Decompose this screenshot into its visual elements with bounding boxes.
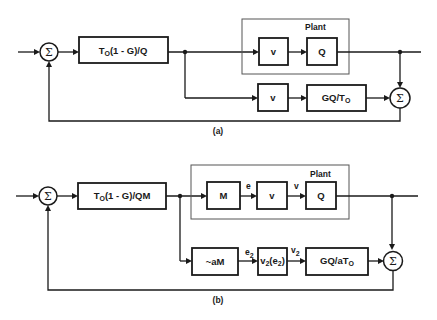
- svg-text:~aM: ~aM: [206, 256, 225, 267]
- arrow-icon: [45, 205, 51, 211]
- svg-text:Σ: Σ: [396, 92, 404, 105]
- svg-text:v: v: [271, 46, 277, 57]
- arrow-icon: [389, 244, 395, 250]
- svg-text:Σ: Σ: [44, 190, 52, 203]
- svg-text:M: M: [220, 190, 228, 201]
- svg-text:Q: Q: [317, 190, 324, 201]
- svg-text:Q: Q: [318, 46, 325, 57]
- signal-v: v: [294, 181, 299, 191]
- svg-text:v: v: [270, 92, 276, 103]
- svg-text:v: v: [269, 190, 275, 201]
- svg-text:Σ: Σ: [389, 255, 397, 268]
- arrow-icon: [397, 82, 403, 88]
- svg-text:v2(e2): v2(e2): [260, 255, 285, 267]
- plant-title-a: Plant: [305, 22, 326, 32]
- signal-e: e: [246, 181, 251, 191]
- block-diagrams: Σ TO(1 - G)/Q Plant v Q v: [0, 0, 437, 320]
- signal-e2: e2: [245, 247, 254, 259]
- caption-a: (a): [213, 126, 224, 136]
- plant-title-b: Plant: [310, 169, 331, 179]
- arrow-icon: [384, 95, 390, 101]
- arrow-icon: [34, 49, 40, 55]
- signal-v2: v2: [291, 245, 300, 257]
- caption-b: (b): [213, 295, 224, 305]
- diagram-b: Σ TO(1 - G)/QM Plant M e v v Q: [16, 165, 418, 305]
- arrow-icon: [46, 61, 52, 67]
- arrow-icon: [33, 193, 39, 199]
- sigma-symbol: Σ: [45, 46, 53, 59]
- diagram-a: Σ TO(1 - G)/Q Plant v Q v: [18, 19, 421, 136]
